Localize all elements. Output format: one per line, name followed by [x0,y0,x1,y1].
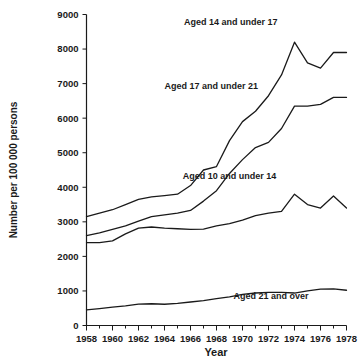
y-tick-label: 3000 [57,216,78,227]
series-label-aged-21-and-over: Aged 21 and over [234,291,310,301]
x-tick-label: 1976 [310,333,331,344]
y-tick-label: 2000 [57,251,78,262]
y-tick-label: 5000 [57,147,78,158]
y-tick-label: 4000 [57,182,78,193]
y-tick-label: 8000 [57,43,78,54]
series-line-aged-10-and-under-14 [87,194,347,242]
x-axis-ticks: 1958196019621964196619681970197219741976… [76,326,357,344]
x-tick-label: 1958 [76,333,97,344]
y-axis-ticks: 0100020003000400050006000700080009000 [57,9,86,331]
y-tick-label: 6000 [57,113,78,124]
x-tick-label: 1972 [258,333,279,344]
series-label-aged-10-and-under-14: Aged 10 and under 14 [183,171,277,181]
x-tick-label: 1962 [128,333,149,344]
x-axis-label: Year [204,346,228,358]
x-tick-label: 1964 [154,333,176,344]
x-tick-label: 1968 [206,333,227,344]
x-tick-label: 1960 [102,333,123,344]
x-tick-label: 1970 [232,333,253,344]
y-tick-label: 1000 [57,285,78,296]
x-tick-label: 1974 [284,333,306,344]
x-tick-label: 1966 [180,333,201,344]
x-tick-label: 1978 [336,333,357,344]
series-label-aged-14-and-under-17: Aged 14 and under 17 [184,17,278,27]
line-chart: 0100020003000400050006000700080009000 19… [0,0,364,362]
series-label-aged-17-and-under-21: Aged 17 and under 21 [165,81,259,91]
y-tick-label: 0 [73,320,78,331]
chart-page: 0100020003000400050006000700080009000 19… [0,0,364,362]
y-tick-label: 7000 [57,78,78,89]
y-axis-label: Number per 100 000 persons [8,101,19,238]
y-tick-label: 9000 [57,9,78,20]
